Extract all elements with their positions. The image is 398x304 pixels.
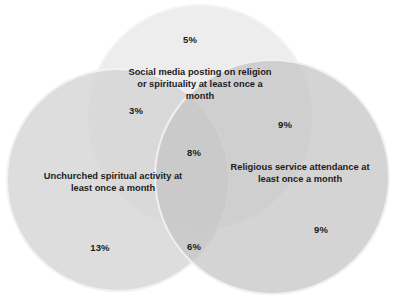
venn-diagram-figure: Unchurched spiritual activity at least o… <box>0 0 398 304</box>
circle-religious-service-attendance[interactable] <box>155 60 389 294</box>
venn-canvas <box>0 0 398 304</box>
